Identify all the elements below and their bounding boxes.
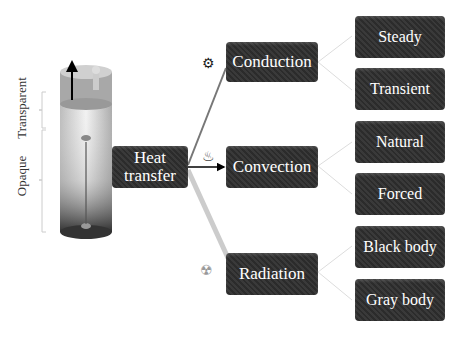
black-body-node: Black body bbox=[355, 226, 445, 268]
root-label-line2: transfer bbox=[124, 167, 176, 185]
gears-icon: ⚙ bbox=[202, 55, 215, 72]
gray-body-node: Gray body bbox=[355, 279, 445, 321]
heat-transfer-node: Heat transfer bbox=[112, 146, 188, 188]
conduction-node: Conduction bbox=[226, 42, 318, 82]
opaque-label: Opaque bbox=[14, 146, 30, 206]
radiation-icon: ☢ bbox=[200, 262, 213, 279]
cylinder-illustration bbox=[60, 62, 112, 239]
forced-node: Forced bbox=[355, 173, 445, 215]
root-label-line1: Heat bbox=[134, 149, 166, 167]
transient-node: Transient bbox=[355, 68, 445, 110]
radiation-node: Radiation bbox=[226, 253, 318, 295]
transparent-label: Transparent bbox=[14, 73, 30, 143]
convection-node: Convection bbox=[226, 146, 318, 188]
heat-waves-icon: ♨ bbox=[202, 148, 215, 165]
natural-node: Natural bbox=[355, 121, 445, 163]
heat-transfer-diagram: Transparent Opaque Heat transfer ⚙ ♨ ☢ C… bbox=[0, 0, 463, 338]
steady-node: Steady bbox=[355, 16, 445, 58]
